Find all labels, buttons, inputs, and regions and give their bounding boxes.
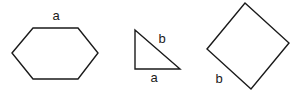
triangle-hypotenuse-label: b [158, 31, 165, 46]
triangle-base-label: a [150, 70, 158, 85]
hexagon-shape [12, 28, 98, 79]
geometry-diagram: a b a b [0, 0, 299, 93]
hexagon-side-label: a [52, 8, 60, 23]
square-side-label: b [215, 71, 222, 86]
